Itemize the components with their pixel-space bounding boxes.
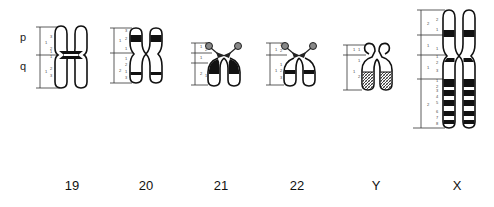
svg-text:3: 3 xyxy=(280,75,283,80)
heterochromatin-q12 xyxy=(381,72,391,89)
chromosome-label-x: X xyxy=(453,178,462,193)
svg-text:2: 2 xyxy=(427,102,430,107)
svg-text:5: 5 xyxy=(436,100,439,105)
dark-band-p xyxy=(131,35,142,42)
svg-text:1: 1 xyxy=(353,47,356,52)
chromosome-label-22: 22 xyxy=(290,178,304,193)
band-numbers: 11 112 xyxy=(353,47,361,79)
heterochromatin-q12 xyxy=(363,72,373,89)
centromere-knot xyxy=(216,52,231,58)
band-numbers: 132 121 xyxy=(200,41,208,78)
svg-text:7: 7 xyxy=(436,115,439,120)
svg-text:1: 1 xyxy=(436,27,439,32)
svg-text:2: 2 xyxy=(436,60,439,65)
svg-text:2: 2 xyxy=(200,71,203,76)
dark-band-q xyxy=(151,72,162,75)
svg-text:2: 2 xyxy=(119,68,122,73)
svg-text:6: 6 xyxy=(436,109,439,114)
dark-band-q12 xyxy=(304,70,315,74)
svg-text:1: 1 xyxy=(125,46,128,51)
chromosome-label-19: 19 xyxy=(65,178,79,193)
dark-band-q21 xyxy=(209,59,220,74)
centromere-gap xyxy=(64,54,78,56)
dark-band-q12 xyxy=(285,70,296,74)
band-numbers: 1321 12213 xyxy=(119,28,128,80)
chromosome-19: 1321 1123 xyxy=(36,26,87,88)
centromere-knot xyxy=(292,52,306,58)
svg-text:1: 1 xyxy=(275,47,278,52)
svg-text:1: 1 xyxy=(358,58,361,63)
svg-text:3: 3 xyxy=(125,28,128,33)
svg-text:2: 2 xyxy=(125,62,128,67)
svg-text:3: 3 xyxy=(125,75,128,80)
dark-band-q21 xyxy=(229,59,240,74)
arm-label-q: q xyxy=(20,60,26,72)
svg-text:3: 3 xyxy=(50,73,53,78)
svg-text:2: 2 xyxy=(436,17,439,22)
svg-text:1: 1 xyxy=(119,38,122,43)
svg-text:1: 1 xyxy=(427,65,430,70)
satellite-stalk xyxy=(287,48,311,54)
band-numbers: 221 11 1123 2 1234 5678 xyxy=(427,17,439,126)
svg-text:8: 8 xyxy=(436,121,439,126)
svg-text:1: 1 xyxy=(427,43,430,48)
svg-text:2: 2 xyxy=(125,36,128,41)
svg-text:1: 1 xyxy=(280,62,283,67)
svg-text:2: 2 xyxy=(427,21,430,26)
svg-text:1: 1 xyxy=(125,56,128,61)
chromosome-ideogram: 1321 1123 1321 12213 xyxy=(0,0,494,207)
svg-text:2: 2 xyxy=(50,66,53,71)
svg-text:2: 2 xyxy=(358,74,361,79)
svg-text:1: 1 xyxy=(200,55,203,60)
svg-text:1: 1 xyxy=(45,69,48,74)
svg-text:1: 1 xyxy=(353,69,356,74)
svg-text:3: 3 xyxy=(436,88,439,93)
chromosome-20: 1321 12213 xyxy=(110,28,162,83)
svg-text:1: 1 xyxy=(358,47,361,52)
band-numbers: 1321 1123 xyxy=(45,34,53,78)
chromosome-label-y: Y xyxy=(372,178,381,193)
arm-label-p: p xyxy=(20,31,26,43)
chromosome-21: 132 121 xyxy=(191,41,242,86)
band-numbers: 132 1123 xyxy=(275,42,283,80)
satellite-stalk xyxy=(211,48,236,54)
chromatid-left xyxy=(443,10,459,128)
chromatid-right xyxy=(459,10,475,128)
svg-text:1: 1 xyxy=(436,46,439,51)
svg-text:1: 1 xyxy=(200,44,203,49)
chromosome-label-20: 20 xyxy=(139,178,153,193)
svg-text:3: 3 xyxy=(436,68,439,73)
svg-text:4: 4 xyxy=(436,94,439,99)
chromosome-x: 221 11 1123 2 1234 5678 xyxy=(413,10,475,128)
svg-text:1: 1 xyxy=(125,69,128,74)
dark-band-q xyxy=(131,72,142,75)
chromosome-22: 132 1123 xyxy=(266,42,317,86)
svg-text:1: 1 xyxy=(45,40,48,45)
dark-band-p xyxy=(151,35,162,42)
chromosome-label-21: 21 xyxy=(214,178,228,193)
svg-text:3: 3 xyxy=(50,34,53,39)
svg-text:1: 1 xyxy=(275,68,278,73)
svg-text:2: 2 xyxy=(280,68,283,73)
chromosome-y: 11 112 xyxy=(343,43,392,90)
